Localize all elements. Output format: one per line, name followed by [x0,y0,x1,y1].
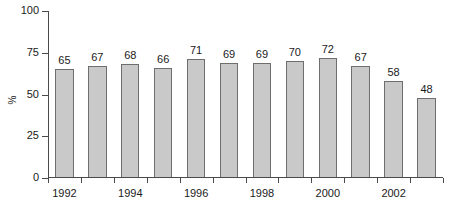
y-axis-tick-label: 75 [0,47,39,59]
x-axis-tick-label: 1994 [100,188,160,199]
x-axis-tick [311,178,312,183]
x-axis-tick [180,178,181,183]
bar[interactable] [351,66,369,178]
x-axis-tick [377,178,378,183]
bar-chart: % 0255075100 656768667169697072675848 19… [0,0,450,211]
bar[interactable] [220,63,238,178]
y-axis-tick-label-text: 100 [0,5,39,16]
x-axis-tick [443,178,444,183]
y-axis-tick-label: 50 [0,89,39,101]
x-axis-tick-label: 2000 [298,188,358,199]
x-axis-tick [410,178,411,183]
x-axis-tick [48,178,49,183]
bar[interactable] [154,68,172,178]
y-axis-tick-label-text: 75 [0,47,39,58]
x-axis-tick-label: 1996 [166,188,226,199]
x-axis-tick [81,178,82,183]
bar[interactable] [187,59,205,178]
x-axis-tick [213,178,214,183]
bar-value-label: 67 [339,52,383,63]
x-axis-tick [147,178,148,183]
x-axis-tick [246,178,247,183]
x-axis-tick-label: 1992 [34,188,94,199]
bar[interactable] [286,61,304,178]
x-axis-tick [278,178,279,183]
bar[interactable] [253,63,271,178]
y-axis-tick-label: 25 [0,130,39,142]
bar-value-label: 48 [405,84,449,95]
bar[interactable] [417,98,435,178]
bar[interactable] [121,64,139,178]
x-axis-tick-label: 2002 [364,188,424,199]
bar[interactable] [384,81,402,178]
x-axis-tick [344,178,345,183]
plot-area [48,11,443,178]
x-axis-tick-label: 1998 [232,188,292,199]
y-axis-tick-label-text: 50 [0,89,39,100]
bar[interactable] [55,69,73,178]
y-axis-tick-label-text: 0 [0,172,39,183]
y-axis-tick-label-text: 25 [0,130,39,141]
bar[interactable] [319,58,337,178]
y-axis-tick-label: 0 [0,172,39,184]
bar[interactable] [88,66,106,178]
bar-value-label: 58 [372,67,416,78]
x-axis-tick [114,178,115,183]
y-axis-tick-label: 100 [0,5,39,17]
